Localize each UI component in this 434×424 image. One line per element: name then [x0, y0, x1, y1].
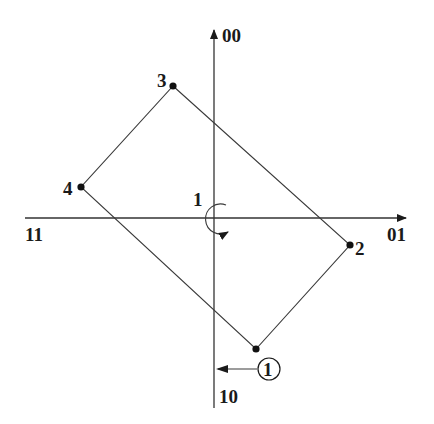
constellation-diagram: 00 01 11 10 2 3 4 1 1: [0, 0, 434, 424]
point-1-dot: [252, 345, 259, 352]
point-4-dot: [77, 183, 84, 190]
point-4-label: 4: [63, 178, 73, 199]
start-marker-label: 1: [263, 359, 273, 380]
rotation-label: 1: [193, 189, 203, 210]
point-2-label: 2: [355, 238, 365, 259]
point-2-dot: [346, 241, 353, 248]
axis-label-top: 00: [222, 25, 241, 46]
point-3-label: 3: [157, 70, 167, 91]
axis-label-bottom: 10: [219, 386, 238, 407]
point-3-dot: [169, 82, 176, 89]
axis-label-left: 11: [25, 224, 43, 245]
axis-label-right: 01: [387, 224, 406, 245]
rotation-arrow-icon: [206, 204, 228, 234]
